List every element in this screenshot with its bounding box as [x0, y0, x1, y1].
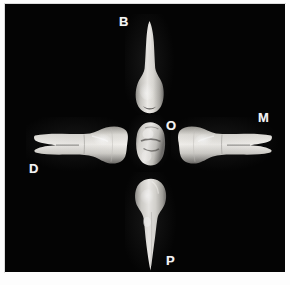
label-mesial: M — [258, 111, 269, 124]
label-palatal: P — [166, 254, 175, 267]
label-distal: D — [29, 162, 39, 175]
tooth-buccal-view — [131, 20, 169, 114]
tooth-occlusal-view — [135, 121, 166, 167]
photographic-plate: B D O M P — [5, 4, 285, 272]
tooth-mesial-view — [177, 123, 274, 166]
label-buccal: B — [119, 15, 129, 28]
label-occlusal: O — [166, 119, 176, 132]
tooth-five-view-figure: B D O M P — [0, 0, 290, 285]
tooth-palatal-view — [131, 178, 171, 271]
tooth-distal-view — [32, 123, 129, 166]
